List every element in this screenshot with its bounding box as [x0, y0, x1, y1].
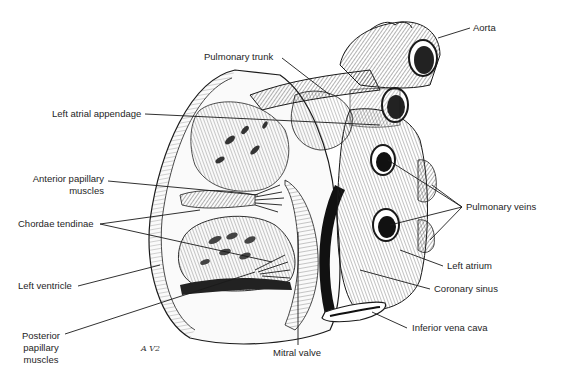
label-aorta: Aorta — [473, 22, 496, 34]
label-line: papillary — [16, 342, 66, 354]
label-line: muscles — [16, 354, 66, 366]
label-chordae-tendinae: Chordae tendinae — [18, 218, 94, 230]
leader-pulmonary-vein-2 — [432, 185, 462, 207]
lower-chamber — [178, 216, 295, 295]
label-pulmonary-trunk: Pulmonary trunk — [204, 51, 273, 63]
label-line: muscles — [20, 185, 104, 197]
label-pulmonary-veins: Pulmonary veins — [466, 201, 536, 213]
label-left-ventricle: Left ventricle — [18, 280, 72, 292]
left-atrium — [337, 109, 436, 310]
leader-left-ventricle — [78, 265, 160, 286]
leader-pulmonary-vein-4 — [430, 207, 462, 240]
artist-signature: A V2 — [141, 344, 160, 353]
label-mitral-valve: Mitral valve — [273, 347, 321, 359]
label-left-atrium: Left atrium — [447, 260, 492, 272]
label-posterior-papillary-muscles: Posterior papillary muscles — [16, 330, 66, 366]
leader-aorta — [438, 28, 470, 38]
aorta — [340, 22, 440, 127]
label-line: Anterior papillary — [20, 173, 104, 185]
heart-illustration: Aorta Pulmonary trunk Left atrial append… — [0, 0, 570, 380]
leader-inferior-vena-cava — [372, 312, 407, 328]
label-anterior-papillary-muscles: Anterior papillary muscles — [20, 173, 104, 197]
label-coronary-sinus: Coronary sinus — [434, 283, 498, 295]
label-left-atrial-appendage: Left atrial appendage — [52, 108, 141, 120]
label-line: Posterior — [16, 330, 66, 342]
label-inferior-vena-cava: Inferior vena cava — [412, 322, 488, 334]
